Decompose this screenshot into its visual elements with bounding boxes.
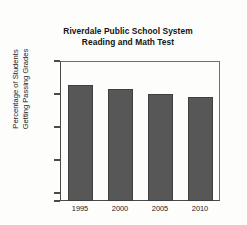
y-axis-label-line-1: Percentage of Students	[11, 15, 21, 163]
x-axis-tick-label: 2010	[180, 204, 220, 214]
chart-title: Riverdale Public School System Reading a…	[28, 26, 228, 47]
bar-2000	[108, 89, 133, 201]
y-axis-label-line-2: Getting Passing Grades	[21, 15, 31, 163]
y-axis-tick-mark	[54, 60, 60, 61]
chart-title-line-1: Riverdale Public School System	[28, 26, 228, 37]
x-axis-tick-label: 1995	[60, 204, 100, 214]
y-axis-tick-mark	[54, 192, 60, 193]
y-axis-tick-mark	[54, 159, 60, 160]
y-axis-label: Percentage of Students Getting Passing G…	[11, 15, 33, 163]
x-axis-tick-label: 2000	[100, 204, 140, 214]
bar-chart-figure: Riverdale Public School System Reading a…	[0, 0, 247, 225]
chart-title-line-2: Reading and Math Test	[28, 37, 228, 48]
bar-2010	[188, 97, 213, 201]
y-axis-baseline-tick-mark	[54, 200, 60, 201]
x-axis-tick-label: 2005	[140, 204, 180, 214]
bar-1995	[68, 85, 93, 201]
y-axis-tick-mark	[54, 93, 60, 94]
bar-2005	[148, 94, 173, 201]
y-axis-tick-mark	[54, 126, 60, 127]
